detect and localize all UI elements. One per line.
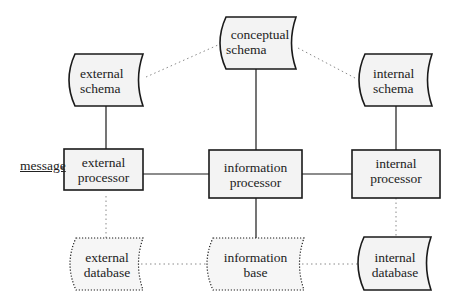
internal-schema-label: internal schema xyxy=(373,66,423,96)
external-database-line2: database xyxy=(72,265,142,280)
external-schema-label: external schema xyxy=(80,66,140,96)
conceptual-schema-line2: schema xyxy=(222,42,298,57)
message-label: message xyxy=(20,158,66,174)
internal-schema-line2: schema xyxy=(373,81,423,96)
information-base-line1: information xyxy=(209,250,302,265)
internal-database-label: internal database xyxy=(360,250,430,280)
external-processor-line1: external xyxy=(64,155,143,170)
external-schema-line2: schema xyxy=(80,81,140,96)
external-database-label: external database xyxy=(72,250,142,280)
edge-conceptual-schema-internal-schema xyxy=(298,48,355,78)
internal-database-line1: internal xyxy=(360,250,430,265)
information-processor-label: information processor xyxy=(209,160,302,190)
internal-database-line2: database xyxy=(360,265,430,280)
information-processor-line2: processor xyxy=(209,175,302,190)
information-base-label: information base xyxy=(209,250,302,280)
external-database-line1: external xyxy=(72,250,142,265)
information-processor-line1: information xyxy=(209,160,302,175)
internal-processor-label: internal processor xyxy=(352,156,440,186)
external-processor-label: external processor xyxy=(64,155,143,185)
internal-processor-line1: internal xyxy=(352,156,440,171)
edge-external-schema-conceptual-schema xyxy=(146,45,218,77)
internal-schema-line1: internal xyxy=(373,66,423,81)
internal-processor-line2: processor xyxy=(352,171,440,186)
conceptual-schema-label: conceptual schema xyxy=(222,27,298,57)
external-schema-line1: external xyxy=(80,66,140,81)
conceptual-schema-line1: conceptual xyxy=(222,27,298,42)
external-processor-line2: processor xyxy=(64,170,143,185)
information-base-line2: base xyxy=(209,265,302,280)
